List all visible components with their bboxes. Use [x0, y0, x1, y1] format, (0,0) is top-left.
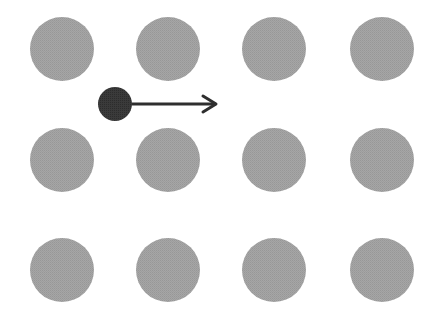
moving-particle [98, 87, 216, 121]
grid-circle-r2-c1 [30, 128, 94, 192]
diagram-canvas [0, 0, 434, 310]
dark-particle [98, 87, 132, 121]
grid-circle-r1-c4 [350, 17, 414, 81]
grid-circle-r2-c2 [136, 128, 200, 192]
lattice-diagram [0, 0, 434, 310]
grid-circle-r3-c2 [136, 238, 200, 302]
grid-circle-r3-c4 [350, 238, 414, 302]
grid-circle-r2-c3 [242, 128, 306, 192]
grid-circle-r1-c1 [30, 17, 94, 81]
grid-circle-r2-c4 [350, 128, 414, 192]
grid-circle-r3-c1 [30, 238, 94, 302]
grid-circle-r1-c2 [136, 17, 200, 81]
grid-circle-r3-c3 [242, 238, 306, 302]
grid-circle-r1-c3 [242, 17, 306, 81]
circle-grid [30, 17, 414, 302]
